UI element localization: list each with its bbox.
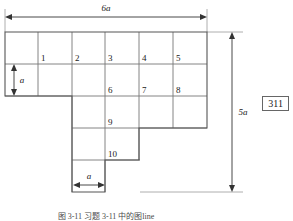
dimension-bottom-unit-a: a bbox=[73, 171, 105, 188]
cell-label-5: 5 bbox=[176, 53, 181, 63]
cell-label-1: 1 bbox=[41, 53, 46, 63]
figure-container: 6a 5a a a bbox=[0, 0, 293, 221]
dimension-label-top: 6a bbox=[102, 3, 112, 13]
cell-label-3: 3 bbox=[108, 53, 113, 63]
cell-label-9: 9 bbox=[108, 117, 113, 127]
dimension-label-left-unit: a bbox=[20, 75, 25, 85]
dimension-top-6a: 6a bbox=[5, 3, 207, 20]
cell-label-4: 4 bbox=[142, 53, 147, 63]
page-number-badge: 311 bbox=[262, 96, 289, 111]
dimension-label-right: 5a bbox=[239, 107, 249, 117]
dimension-left-unit-a: a bbox=[11, 64, 25, 96]
dimension-label-bottom-unit: a bbox=[87, 171, 92, 181]
cell-label-8: 8 bbox=[176, 85, 181, 95]
cell-label-2: 2 bbox=[75, 53, 80, 63]
figure-svg: 6a 5a a a bbox=[0, 0, 293, 221]
cell-number-labels: 1 2 3 4 5 6 7 8 9 10 bbox=[41, 53, 181, 159]
cell-label-10: 10 bbox=[108, 149, 118, 159]
figure-caption: 图 3-11 习题 3-11 中的图line bbox=[58, 211, 155, 221]
cell-label-6: 6 bbox=[108, 85, 113, 95]
cell-label-7: 7 bbox=[142, 85, 147, 95]
dimension-right-5a: 5a bbox=[229, 32, 248, 192]
